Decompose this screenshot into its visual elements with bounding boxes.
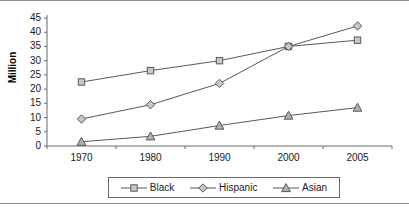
y-tick-label: 25 <box>17 70 41 80</box>
diamond-marker-icon <box>77 115 85 123</box>
y-tick-label: 15 <box>17 98 41 108</box>
series-black <box>78 37 360 85</box>
x-tick-label: 1980 <box>126 153 176 163</box>
legend-item-hispanic[interactable]: Hispanic <box>190 182 257 194</box>
y-tick-label: 10 <box>17 113 41 123</box>
legend-item-black[interactable]: Black <box>121 182 174 194</box>
legend-label: Asian <box>302 183 327 193</box>
square-marker-icon <box>147 67 153 73</box>
figure-container: Million 454035302520151050 1970198019902… <box>0 0 409 212</box>
y-tick-label: 20 <box>17 84 41 94</box>
x-tick-label: 1970 <box>57 153 107 163</box>
diamond-marker-icon <box>353 22 361 30</box>
y-tick-label: 40 <box>17 27 41 37</box>
triangle-marker-icon <box>353 103 362 111</box>
legend-item-asian[interactable]: Asian <box>273 182 327 194</box>
diamond-marker-icon <box>199 183 207 191</box>
square-marker-icon <box>131 184 137 190</box>
y-tick-label: 0 <box>17 141 41 151</box>
square-marker-icon <box>121 182 147 194</box>
series-line <box>82 26 358 119</box>
x-tick-label: 2000 <box>264 153 314 163</box>
legend-label: Black <box>150 183 174 193</box>
square-marker-icon <box>354 37 360 43</box>
y-axis-label: Million <box>7 33 18 103</box>
triangle-marker-icon <box>273 182 299 194</box>
diamond-marker-icon <box>190 182 216 194</box>
square-marker-icon <box>216 57 222 63</box>
x-tick-label: 1990 <box>195 153 245 163</box>
square-marker-icon <box>78 79 84 85</box>
x-tick-label: 2005 <box>333 153 383 163</box>
y-tick-label: 30 <box>17 56 41 66</box>
diamond-marker-icon <box>215 79 223 87</box>
y-tick-label: 45 <box>17 13 41 23</box>
series-asian <box>77 103 362 145</box>
series-hispanic <box>77 22 361 123</box>
chart-legend: BlackHispanicAsian <box>108 177 340 198</box>
y-tick-label: 35 <box>17 41 41 51</box>
diamond-marker-icon <box>146 101 154 109</box>
legend-label: Hispanic <box>219 183 257 193</box>
y-tick-label: 5 <box>17 127 41 137</box>
